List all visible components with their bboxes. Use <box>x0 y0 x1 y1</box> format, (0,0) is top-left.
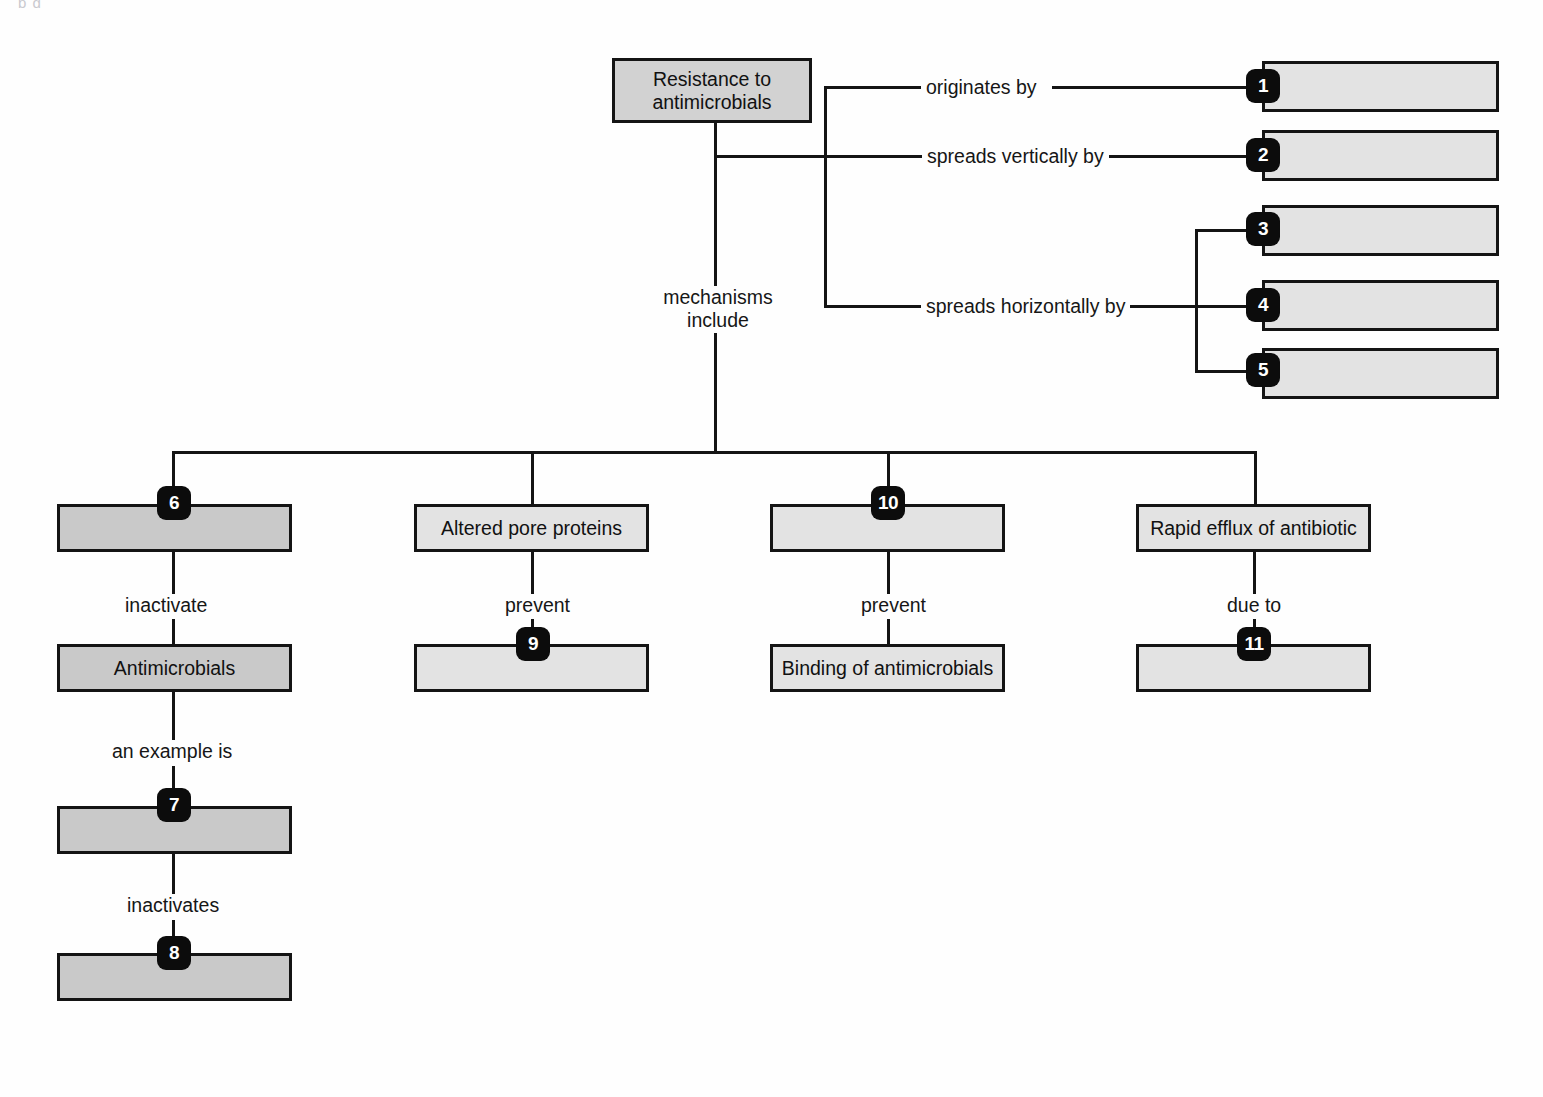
connector-efflux-to-dueto <box>1253 552 1256 594</box>
connector-spreads-vertically-right <box>1106 155 1262 158</box>
node-altered-pore-proteins[interactable]: Altered pore proteins <box>414 504 649 552</box>
node-binding-of-antimicrobials-label: Binding of antimicrobials <box>782 657 993 680</box>
connector-prevent-to-binding <box>887 619 890 644</box>
connector-root-bottom-stem <box>714 121 717 156</box>
connector-pore-to-prevent <box>531 552 534 594</box>
badge-1: 1 <box>1246 69 1280 103</box>
badge-4: 4 <box>1246 288 1280 322</box>
connector-7-to-inactivates <box>172 854 175 894</box>
blank-node-1[interactable] <box>1262 61 1499 112</box>
badge-11: 11 <box>1237 627 1271 661</box>
blank-node-3[interactable] <box>1262 205 1499 256</box>
badge-5: 5 <box>1246 353 1280 387</box>
badge-9: 9 <box>516 627 550 661</box>
blank-node-5[interactable] <box>1262 348 1499 399</box>
node-antimicrobials[interactable]: Antimicrobials <box>57 644 292 692</box>
badge-2: 2 <box>1246 138 1280 172</box>
link-label-prevent-binding: prevent <box>856 594 931 617</box>
badge-7: 7 <box>157 788 191 822</box>
link-label-originates-by: originates by <box>921 76 1042 99</box>
badge-8: 8 <box>157 936 191 970</box>
root-node-resistance-to-antimicrobials[interactable]: Resistance to antimicrobials <box>612 58 812 123</box>
concept-map-canvas: p g Resistance to antimicrobials origina… <box>0 0 1543 1097</box>
connector-drop-col4 <box>1254 451 1257 504</box>
blank-node-2[interactable] <box>1262 130 1499 181</box>
node-altered-pore-proteins-label: Altered pore proteins <box>441 517 622 540</box>
scan-artifact-text: p g <box>18 0 78 8</box>
badge-10: 10 <box>871 486 905 520</box>
connector-originates-left <box>824 86 922 89</box>
connector-subtree-spine <box>1195 229 1198 373</box>
link-label-inactivate: inactivate <box>120 594 212 617</box>
badge-6: 6 <box>157 486 191 520</box>
connector-right-trunk <box>824 86 827 308</box>
connector-inactivate-to-antimicrobials <box>172 619 175 644</box>
connector-spreads-vertically-left <box>714 155 923 158</box>
link-label-spreads-vertically-by: spreads vertically by <box>922 145 1109 168</box>
link-label-due-to: due to <box>1222 594 1286 617</box>
connector-antimicrobials-to-example <box>172 692 175 740</box>
node-binding-of-antimicrobials[interactable]: Binding of antimicrobials <box>770 644 1005 692</box>
node-rapid-efflux-label: Rapid efflux of antibiotic <box>1150 517 1357 540</box>
connector-spreads-horizontally-left <box>824 305 922 308</box>
connector-6-to-inactivate <box>172 552 175 594</box>
link-label-spreads-horizontally-by: spreads horizontally by <box>921 295 1130 318</box>
blank-node-4[interactable] <box>1262 280 1499 331</box>
node-antimicrobials-label: Antimicrobials <box>114 657 235 680</box>
connector-originates-right <box>1052 86 1262 89</box>
badge-3: 3 <box>1246 212 1280 246</box>
connector-10-to-prevent <box>887 552 890 594</box>
link-label-mechanisms-include: mechanisms include <box>652 286 784 333</box>
link-label-inactivates: inactivates <box>122 894 224 917</box>
connector-drop-col2 <box>531 451 534 504</box>
link-label-an-example-is: an example is <box>107 740 237 763</box>
root-node-label: Resistance to antimicrobials <box>621 68 803 114</box>
link-label-prevent-pore: prevent <box>500 594 575 617</box>
connector-mechanism-bus <box>172 451 1257 454</box>
connector-spreads-horizontally-right <box>1120 305 1198 308</box>
node-rapid-efflux-of-antibiotic[interactable]: Rapid efflux of antibiotic <box>1136 504 1371 552</box>
